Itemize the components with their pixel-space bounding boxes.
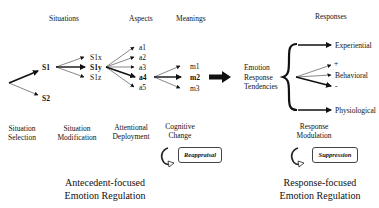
tendencies-line-1: Emotion xyxy=(244,63,278,73)
response-arrows xyxy=(296,45,331,110)
situation-s1x: S1x xyxy=(90,53,102,62)
aspect-a5: a5 xyxy=(139,83,146,92)
stage-line: Attentional xyxy=(108,123,154,132)
stage-line: Response xyxy=(292,122,336,131)
attentional-deployment-arrows xyxy=(106,47,135,87)
group-line: Response-focused xyxy=(270,176,370,189)
stage-cognitive-change: Cognitive Change xyxy=(160,122,200,140)
emotion-response-tendencies: Emotion Response Tendencies xyxy=(244,63,278,92)
group-line: Emotion Regulation xyxy=(270,189,370,202)
cognitive-change-arrows xyxy=(154,66,181,88)
aspect-a3: a3 xyxy=(139,63,146,72)
stage-line: Modulation xyxy=(292,131,336,140)
meaning-m2: m2 xyxy=(190,73,200,82)
aspect-a2: a2 xyxy=(139,53,146,62)
response-behavioral: Behavioral xyxy=(335,71,368,80)
tendencies-line-2: Response xyxy=(244,73,278,83)
stage-situation-selection: Situation Selection xyxy=(2,124,42,142)
meaning-m1: m1 xyxy=(190,62,200,71)
situation-s2: S2 xyxy=(42,94,50,103)
header-aspects: Aspects xyxy=(129,14,153,23)
stage-line: Situation xyxy=(55,124,99,133)
stage-attentional-deployment: Attentional Deployment xyxy=(108,123,154,141)
response-focused-label: Response-focused Emotion Regulation xyxy=(270,176,370,202)
situation-s1z: S1z xyxy=(90,73,101,82)
response-plus: + xyxy=(334,59,338,68)
response-minus: - xyxy=(335,82,338,91)
stage-situation-modification: Situation Modification xyxy=(55,124,99,142)
stage-line: Selection xyxy=(2,133,42,142)
stage-line: Change xyxy=(160,131,200,140)
stage-response-modulation: Response Modulation xyxy=(292,122,336,140)
situation-selection-arrows xyxy=(9,71,38,95)
suppression-curve-icon xyxy=(292,148,304,167)
header-responses: Responses xyxy=(315,12,347,21)
aspect-a4: a4 xyxy=(139,73,147,82)
suppression-box: Suppression xyxy=(312,147,358,163)
response-experiential: Experiential xyxy=(335,41,372,50)
response-physiological: Physiological xyxy=(335,106,376,115)
antecedent-focused-label: Antecedent-focused Emotion Regulation xyxy=(50,176,160,202)
reappraisal-curve-icon xyxy=(162,148,174,167)
curly-brace xyxy=(283,44,297,110)
aspect-a1: a1 xyxy=(139,43,146,52)
situation-s1: S1 xyxy=(42,63,50,72)
meaning-m3: m3 xyxy=(190,84,200,93)
header-situations: Situations xyxy=(49,14,79,23)
tendencies-line-3: Tendencies xyxy=(244,82,278,92)
group-line: Antecedent-focused xyxy=(50,176,160,189)
reappraisal-box: Reappraisal xyxy=(178,147,222,163)
group-line: Emotion Regulation xyxy=(50,189,160,202)
situation-s1y: S1y xyxy=(90,63,102,72)
stage-line: Cognitive xyxy=(160,122,200,131)
situation-modification-arrows xyxy=(56,57,85,77)
big-arrow xyxy=(209,71,231,83)
stage-line: Situation xyxy=(2,124,42,133)
header-meanings: Meanings xyxy=(176,14,206,23)
stage-line: Deployment xyxy=(108,132,154,141)
stage-line: Modification xyxy=(55,133,99,142)
